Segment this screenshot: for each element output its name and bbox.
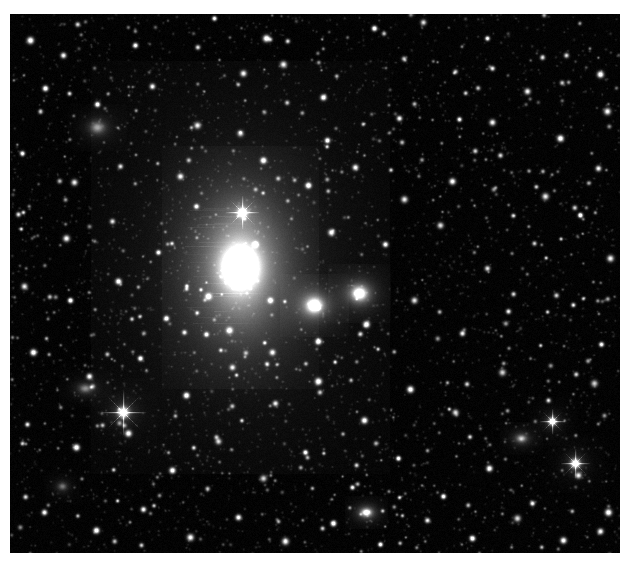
- astronomy-image-page: [0, 0, 637, 569]
- frame-border-top: [0, 0, 637, 14]
- frame-border-right: [620, 0, 637, 569]
- star-field-canvas: [10, 14, 620, 553]
- frame-border-bottom: [0, 553, 637, 569]
- sky-field-region: [10, 14, 620, 553]
- frame-border-left: [0, 0, 10, 569]
